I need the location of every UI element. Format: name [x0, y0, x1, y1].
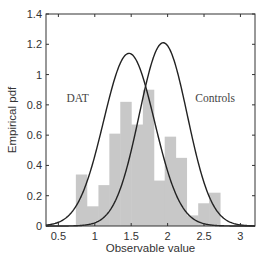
x-tick-label: 2.5: [196, 230, 211, 242]
histogram-bars: [76, 90, 221, 226]
histogram-bar: [109, 134, 120, 226]
y-axis-label: Empirical pdf: [6, 86, 18, 153]
histogram-bar: [76, 175, 87, 226]
x-tick-label: 0.5: [51, 230, 66, 242]
x-axis-label: Observable value: [106, 242, 196, 254]
histogram-chart: 0.511.522.53 00.20.40.60.811.21.4 Observ…: [0, 0, 257, 260]
y-tick-label: 1.4: [27, 8, 42, 20]
annotation-dat: DAT: [66, 92, 88, 104]
y-tick-label: 0.2: [27, 190, 42, 202]
histogram-bar: [209, 193, 220, 226]
x-tick-label: 3: [237, 230, 243, 242]
histogram-bar: [154, 181, 165, 226]
y-tick-label: 0.6: [27, 129, 42, 141]
histogram-bar: [143, 90, 154, 226]
x-tick-label: 1.5: [124, 230, 139, 242]
histogram-bar: [120, 102, 131, 226]
y-tick-label: 0.8: [27, 99, 42, 111]
y-tick-label: 0.4: [27, 159, 42, 171]
histogram-bar: [176, 158, 187, 226]
annotation-controls: Controls: [195, 92, 235, 104]
y-tick-label: 1: [36, 69, 42, 81]
x-tick-label: 1: [92, 230, 98, 242]
y-tick-label: 1.2: [27, 38, 42, 50]
y-tick-label: 0: [36, 220, 42, 232]
x-tick-label: 2: [165, 230, 171, 242]
